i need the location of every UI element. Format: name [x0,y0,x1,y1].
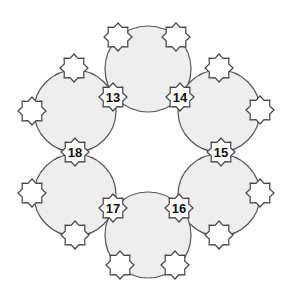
star-number-label: 16 [172,201,186,216]
numbered-star-15: 15 [207,138,235,166]
numbered-star-14: 14 [166,83,194,111]
star-icon [246,96,274,124]
star-icon [161,251,189,279]
diagram-canvas: 131415161718 [0,0,292,297]
puzzle-diagram: 131415161718 [0,0,292,297]
star-icon [60,54,88,82]
star-icon [162,23,190,51]
star-number-label: 14 [173,90,188,105]
numbered-star-17: 17 [99,194,127,222]
numbered-star-16: 16 [165,194,193,222]
star-icon [104,23,132,51]
star-icon [106,251,134,279]
numbered-star-18: 18 [61,138,89,166]
star-icon [18,97,46,125]
star-icon [205,221,233,249]
star-number-label: 15 [214,145,228,160]
star-icon [205,54,233,82]
numbered-star-13: 13 [99,83,127,111]
star-number-label: 18 [68,145,82,160]
star-icon [18,179,46,207]
star-icon [61,221,89,249]
star-number-label: 13 [106,90,120,105]
star-icon [246,179,274,207]
star-number-label: 17 [106,201,120,216]
